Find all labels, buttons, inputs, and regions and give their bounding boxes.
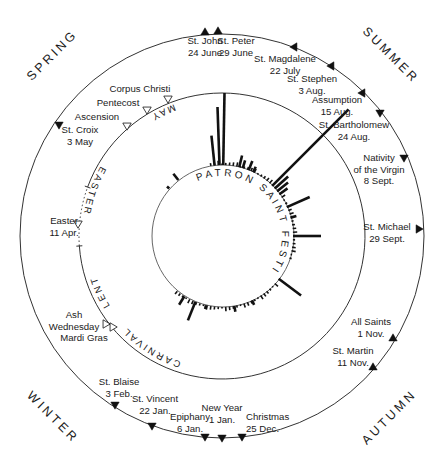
feast-label: Ascension — [75, 111, 119, 122]
feast-label: 1 Jan. — [209, 414, 235, 425]
festival-tick — [247, 302, 248, 305]
festival-bar — [234, 306, 235, 312]
festival-tick — [258, 297, 259, 298]
feast-label: 22 Jan. — [139, 405, 170, 416]
festival-tick — [261, 175, 262, 177]
festival-tick — [188, 299, 190, 303]
festival-tick — [272, 286, 273, 287]
festival-tick — [247, 167, 248, 170]
festival-tick — [270, 180, 273, 183]
season-label-autumn: AUTUMN — [359, 387, 419, 447]
festival-tick — [270, 289, 271, 291]
feast-label: 11 Nov. — [337, 357, 369, 368]
season-label-summer: SUMMER — [360, 24, 422, 86]
feast-label: 11 Apr. — [49, 227, 78, 238]
fixed-feast: St. Magdalene22 July — [254, 43, 316, 76]
period-label-carnival: CARNIVAL — [119, 325, 181, 370]
filled-triangle-icon — [389, 334, 397, 341]
festival-bar — [239, 155, 242, 167]
feast-label: Ash — [66, 309, 83, 320]
festival-tick — [196, 302, 197, 305]
fixed-feast: All Saints1 Nov. — [351, 316, 397, 341]
feast-label: St. Bartholomew — [319, 119, 389, 130]
filled-triangle-icon — [416, 225, 423, 233]
festival-bar — [211, 136, 214, 166]
movable-feast: Easter11 Apr. — [49, 215, 82, 238]
festival-tick — [258, 173, 259, 174]
filled-triangle-icon — [218, 435, 226, 442]
festival-tick — [175, 291, 177, 294]
fixed-feast: St. Martin11 Nov. — [332, 345, 377, 370]
feast-label: Epiphany — [170, 411, 210, 422]
fixed-feast: St. Croix3 May — [55, 122, 99, 146]
festival-bar — [223, 93, 224, 165]
feast-label: St. Peter — [217, 35, 255, 46]
feast-label: 3 Feb. — [105, 388, 132, 399]
feast-label: 8 Sept. — [364, 175, 394, 186]
fixed-feast: Nativityof the Virgin8 Sept. — [353, 152, 408, 186]
inner-ring — [152, 165, 294, 307]
fixed-feast: St. Michael29 Sept. — [363, 221, 423, 244]
season-label-winter: WINTER — [24, 388, 81, 445]
festival-tick — [251, 301, 252, 304]
feast-label: St. Michael — [363, 221, 410, 232]
feast-label: 6 Jan. — [177, 423, 203, 434]
festival-tick — [261, 296, 263, 300]
festival-tick — [282, 195, 286, 197]
festival-tick — [287, 206, 290, 207]
festival-bar — [167, 186, 169, 188]
festival-tick — [206, 305, 207, 309]
festival-tick — [267, 291, 269, 293]
festival-bar — [287, 197, 310, 207]
feast-label: 1 Nov. — [357, 328, 384, 339]
feast-label: St. Blaise — [99, 376, 140, 387]
feast-label: St. Magdalene — [254, 53, 316, 64]
feast-label: All Saints — [351, 316, 391, 327]
festival-tick — [233, 162, 234, 166]
feast-label: 29 June — [219, 47, 253, 58]
festival-tick — [244, 166, 245, 168]
feast-label: Christmas — [246, 411, 289, 422]
festival-tick — [237, 162, 238, 166]
feast-label: of the Virgin — [353, 164, 404, 175]
festival-tick — [291, 251, 295, 252]
filled-triangle-icon — [327, 62, 334, 70]
period-label-easter: EASTER — [81, 165, 108, 217]
festival-tick — [182, 296, 183, 298]
filled-triangle-icon — [290, 43, 297, 51]
festival-bar — [217, 107, 219, 165]
feast-label: St. Martin — [332, 345, 373, 356]
festival-tick — [254, 299, 255, 301]
festival-tick — [244, 304, 245, 308]
feast-label: Assumption — [312, 94, 362, 105]
feast-label: Nativity — [363, 152, 395, 163]
festival-tick — [264, 176, 266, 178]
feast-label: 15 Aug. — [321, 106, 354, 117]
feast-label: St. Vincent — [132, 393, 179, 404]
season-labels: SPRINGSUMMERWINTERAUTUMN — [24, 24, 422, 447]
hollow-triangle-icon — [143, 107, 151, 114]
festival-tick — [251, 168, 252, 171]
feast-label: 25 Dec. — [246, 423, 279, 434]
season-label-spring: SPRING — [24, 27, 81, 84]
fixed-feast: Epiphany6 Jan. — [170, 411, 210, 441]
festival-bar — [179, 296, 184, 304]
festival-tick — [283, 200, 284, 201]
festival-bar — [279, 279, 301, 296]
festival-calendar-diagram: MAYEASTERLENTCARNIVAL PATRON SAINT FESTI… — [0, 0, 447, 472]
feast-label: St. Stephen — [287, 73, 337, 84]
festival-tick — [199, 304, 200, 306]
feast-label: Mardi Gras — [60, 332, 108, 343]
festival-tick — [272, 185, 273, 186]
fixed-feast: St. Peter29 June — [214, 27, 256, 58]
festival-tick — [264, 293, 266, 296]
filled-triangle-icon — [201, 28, 209, 35]
festival-tick — [192, 301, 193, 304]
festival-bar — [188, 302, 195, 321]
festival-tick — [267, 178, 269, 181]
feast-label: St. Croix — [62, 124, 99, 135]
festival-tick — [290, 258, 292, 259]
festival-tick — [275, 284, 278, 287]
festival-tick — [186, 297, 187, 298]
festival-tick — [275, 187, 277, 188]
